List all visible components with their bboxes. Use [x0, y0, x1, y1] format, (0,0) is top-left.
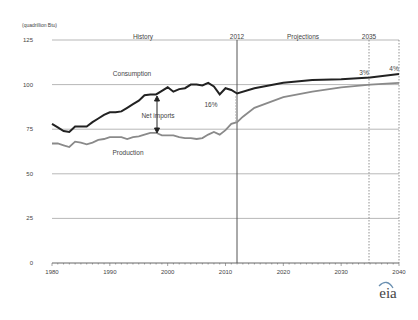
y-axis-unit: (quadrillion Btu)	[22, 22, 57, 28]
energy-chart: 0255075100125 19801990200020102020203020…	[0, 0, 418, 320]
label-2012: 2012	[230, 33, 245, 40]
x-tick-label: 2000	[161, 269, 175, 275]
x-tick-label: 1980	[45, 269, 59, 275]
label-2035: 2035	[362, 33, 377, 40]
svg-text:eia: eia	[379, 285, 397, 301]
x-tick-label: 2040	[392, 269, 406, 275]
y-tick-label: 75	[26, 126, 33, 132]
label-history: History	[133, 33, 154, 41]
eia-logo: eia	[379, 282, 397, 301]
label-production: Production	[112, 149, 143, 156]
x-tick-label: 2010	[219, 269, 233, 275]
label-pct-2012: 16%	[204, 101, 217, 108]
label-pct-2040: 4%	[389, 65, 399, 72]
y-tick-label: 50	[26, 171, 33, 177]
x-axis-ticks: 1980199020002010202020302040	[45, 263, 406, 275]
y-tick-label: 125	[23, 37, 34, 43]
y-tick-label: 25	[26, 215, 33, 221]
label-pct-2035: 3%	[359, 69, 369, 76]
consumption-line	[52, 74, 399, 132]
gridlines	[52, 40, 399, 263]
label-net-imports: Net imports	[141, 112, 175, 120]
x-tick-label: 1990	[103, 269, 117, 275]
x-tick-label: 2030	[334, 269, 348, 275]
label-projections: Projections	[287, 33, 320, 41]
x-tick-label: 2020	[277, 269, 291, 275]
y-tick-label: 0	[30, 260, 34, 266]
y-tick-label: 100	[23, 82, 34, 88]
y-axis-ticks: 0255075100125	[23, 37, 34, 266]
label-consumption: Consumption	[113, 70, 152, 78]
